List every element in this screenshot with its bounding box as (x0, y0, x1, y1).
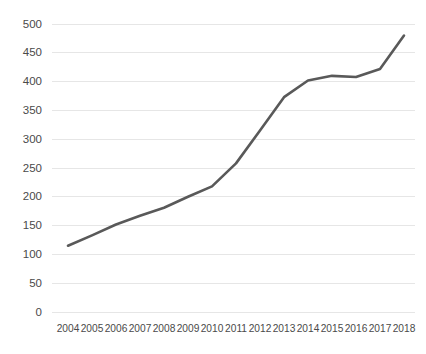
y-tick-label: 0 (36, 306, 42, 318)
y-tick-label: 200 (23, 190, 42, 202)
y-tick-label: 250 (23, 162, 42, 174)
y-tick-label: 500 (23, 18, 42, 30)
y-tick-label: 50 (29, 277, 42, 289)
x-tick-label: 2005 (81, 323, 104, 334)
x-tick-label: 2014 (297, 323, 320, 334)
x-tick-label: 2009 (177, 323, 200, 334)
x-tick-label: 2006 (105, 323, 128, 334)
x-tick-label: 2016 (345, 323, 368, 334)
x-tick-label: 2011 (225, 323, 247, 334)
line-chart: 050100150200250300350400450500 200420052… (0, 0, 426, 354)
y-tick-label: 450 (23, 46, 42, 58)
y-tick-label: 150 (23, 219, 42, 231)
y-tick-label: 350 (23, 104, 42, 116)
x-tick-label: 2018 (393, 323, 416, 334)
x-tick-label: 2004 (57, 323, 80, 334)
x-axis-tick-labels: 2004200520062007200820092010201120122013… (57, 323, 416, 334)
x-tick-label: 2010 (201, 323, 224, 334)
chart-canvas: 050100150200250300350400450500 200420052… (0, 0, 426, 354)
x-tick-label: 2015 (321, 323, 344, 334)
x-tick-label: 2007 (129, 323, 152, 334)
y-tick-label: 400 (23, 75, 42, 87)
x-tick-label: 2008 (153, 323, 176, 334)
y-tick-label: 100 (23, 248, 42, 260)
y-tick-label: 300 (23, 133, 42, 145)
x-tick-label: 2012 (249, 323, 272, 334)
x-tick-label: 2013 (273, 323, 296, 334)
x-tick-label: 2017 (369, 323, 392, 334)
